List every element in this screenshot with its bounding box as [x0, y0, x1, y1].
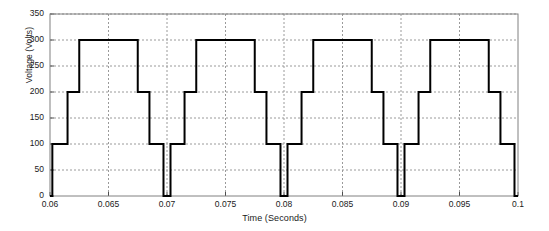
x-tick-label: 0.065	[87, 199, 131, 209]
y-tick-label: 100	[8, 138, 44, 148]
y-tick-label: 300	[8, 34, 44, 44]
x-tick-label: 0.085	[321, 199, 365, 209]
plot-background	[50, 14, 518, 196]
y-tick-label: 200	[8, 86, 44, 96]
x-tick-label: 0.07	[145, 199, 189, 209]
figure: Voltage (Volts) Time (Seconds) 050100150…	[0, 0, 549, 231]
y-tick-label: 250	[8, 60, 44, 70]
y-tick-label: 350	[8, 8, 44, 18]
x-axis-label: Time (Seconds)	[0, 213, 549, 223]
x-tick-label: 0.08	[262, 199, 306, 209]
x-tick-label: 0.095	[438, 199, 482, 209]
x-tick-label: 0.06	[28, 199, 72, 209]
chart-plot-area	[0, 0, 549, 231]
x-tick-label: 0.1	[496, 199, 540, 209]
y-tick-label: 50	[8, 164, 44, 174]
x-tick-label: 0.09	[379, 199, 423, 209]
x-tick-label: 0.075	[204, 199, 248, 209]
y-tick-label: 150	[8, 112, 44, 122]
